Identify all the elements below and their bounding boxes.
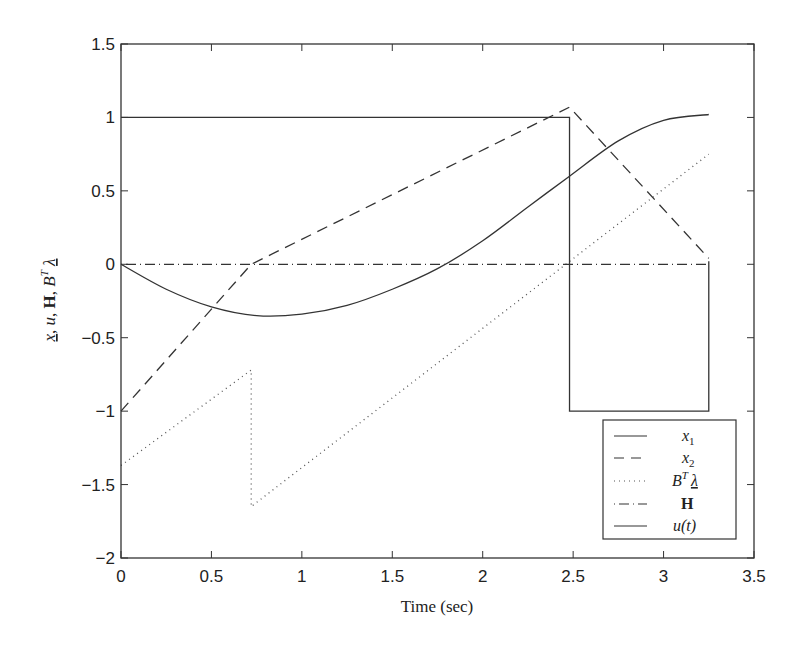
x-tick-label: 0 xyxy=(116,567,125,586)
x-tick-label: 2.5 xyxy=(561,567,585,586)
ylabel-u: u xyxy=(40,317,59,326)
y-axis-label: x, u, H, BT λ xyxy=(38,259,59,343)
y-tick-label: 0.5 xyxy=(91,182,115,201)
x-tick-label: 1.5 xyxy=(380,567,404,586)
legend-box xyxy=(603,420,736,539)
ylabel-sep: , xyxy=(40,287,59,296)
y-tick-label: −1 xyxy=(96,402,115,421)
ylabel-lambda: λ xyxy=(40,259,59,267)
ylabel-h: H xyxy=(40,295,59,308)
y-tick-label: −2 xyxy=(96,549,115,568)
ylabel-sep: , xyxy=(40,308,59,317)
x-tick-label: 2 xyxy=(478,567,487,586)
svg-text:x, u, H, BT λ: x, u, H, BT λ xyxy=(38,259,59,343)
chart: 00.511.522.533.51.510.50−0.5−1−1.5−2 Tim… xyxy=(0,0,808,657)
y-tick-label: −1.5 xyxy=(81,476,115,495)
y-tick-label: 1.5 xyxy=(91,35,115,54)
x-tick-label: 0.5 xyxy=(200,567,224,586)
legend: x1 x2 BTλ H u(t) xyxy=(603,420,736,539)
x-tick-label: 3.5 xyxy=(742,567,766,586)
legend-label-h: H xyxy=(681,495,694,512)
x-axis-label: Time (sec) xyxy=(401,597,474,616)
ylabel-sep: , xyxy=(40,325,59,334)
ylabel-b: B xyxy=(40,276,59,287)
y-tick-label: 1 xyxy=(106,108,115,127)
x-tick-label: 1 xyxy=(297,567,306,586)
y-tick-label: −0.5 xyxy=(81,329,115,348)
series-x1-line xyxy=(121,114,709,316)
y-tick-label: 0 xyxy=(106,255,115,274)
x-tick-label: 3 xyxy=(659,567,668,586)
series-x2-line xyxy=(121,107,709,411)
legend-label-u: u(t) xyxy=(673,517,696,535)
